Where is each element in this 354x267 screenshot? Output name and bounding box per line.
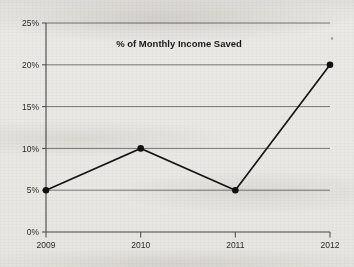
- data-point-2010[interactable]: [137, 145, 144, 152]
- scan-speck-artifact: [331, 37, 333, 40]
- y-tick-label-0: 0%: [27, 227, 40, 237]
- data-point-2009[interactable]: [43, 187, 50, 194]
- x-tick-label-2012: 2012: [321, 240, 340, 250]
- data-point-2012[interactable]: [327, 62, 334, 69]
- x-tick-label-2011: 2011: [226, 240, 245, 250]
- data-point-2011[interactable]: [232, 187, 239, 194]
- line-chart: 25% 20% 15% 10% 5% 0% 2009 2010 2011 201…: [0, 0, 354, 267]
- scanned-chart-page: 25% 20% 15% 10% 5% 0% 2009 2010 2011 201…: [0, 0, 354, 267]
- y-tick-label-15: 15%: [22, 102, 39, 112]
- x-tick-label-2009: 2009: [37, 240, 56, 250]
- x-tick-marks: [46, 232, 330, 238]
- y-tick-label-20: 20%: [22, 60, 39, 70]
- data-point-markers: [43, 62, 334, 194]
- data-line-series: [46, 65, 330, 190]
- y-tick-marks: [42, 23, 46, 232]
- y-tick-label-5: 5%: [27, 185, 40, 195]
- chart-title: % of Monthly Income Saved: [116, 38, 242, 49]
- y-tick-label-10: 10%: [22, 144, 39, 154]
- y-tick-label-25: 25%: [22, 18, 39, 28]
- x-tick-label-2010: 2010: [131, 240, 150, 250]
